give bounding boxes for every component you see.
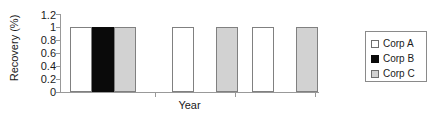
bar-year1-corp-c (114, 27, 136, 92)
chart-legend: Corp A Corp B Corp C (365, 31, 427, 82)
y-tick-mark (56, 53, 60, 54)
y-tick-mark (56, 40, 60, 41)
legend-swatch-icon (371, 70, 379, 78)
legend-swatch-icon (371, 40, 379, 48)
y-tick-label: 0.4 (30, 61, 56, 72)
x-tick-mark (155, 93, 156, 97)
y-axis-line (60, 14, 61, 93)
legend-swatch-icon (371, 55, 379, 63)
y-tick-mark (56, 79, 60, 80)
x-tick-mark (235, 93, 236, 97)
y-tick-label: 0.8 (30, 35, 56, 46)
bar-year2-corp-a (172, 27, 194, 92)
bar-year1-corp-a (70, 27, 92, 92)
legend-item-corp-b: Corp B (371, 51, 426, 66)
y-tick-label: 1.2 (30, 10, 56, 21)
legend-label: Corp C (383, 69, 415, 79)
legend-item-corp-c: Corp C (371, 66, 426, 81)
y-tick-mark (56, 14, 60, 15)
x-tick-mark (315, 93, 316, 97)
y-tick-mark (56, 92, 60, 93)
legend-label: Corp B (383, 54, 414, 64)
y-tick-mark (56, 27, 60, 28)
y-axis-title: Recovery (%) (8, 2, 22, 94)
legend-item-corp-a: Corp A (371, 36, 426, 51)
y-tick-label: 0 (30, 87, 56, 98)
y-axis-tick-labels: 1.2 1 0.8 0.6 0.4 0.2 0 (28, 0, 56, 118)
y-tick-label: 0.2 (30, 74, 56, 85)
x-axis-line (60, 92, 319, 93)
y-tick-label: 1 (30, 22, 56, 33)
chart-figure: Recovery (%) 1.2 1 0.8 0.6 0.4 0.2 0 (0, 0, 442, 118)
bar-year1-corp-b (92, 27, 114, 92)
bar-year3-corp-c (296, 27, 318, 92)
bar-year3-corp-a (252, 27, 274, 92)
y-tick-label: 0.6 (30, 48, 56, 59)
x-axis-title: Year (60, 99, 319, 111)
y-tick-mark (56, 66, 60, 67)
plot-area (60, 14, 319, 93)
bar-year2-corp-c (216, 27, 238, 92)
legend-label: Corp A (383, 39, 414, 49)
